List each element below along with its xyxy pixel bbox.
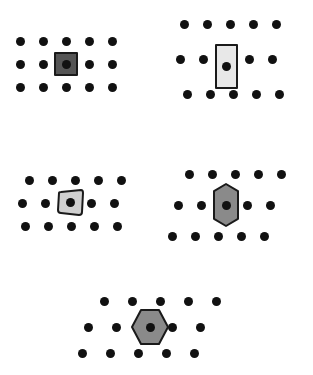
shape-center-dot (146, 323, 155, 332)
grid-dot (100, 297, 109, 306)
grid-dot (84, 323, 93, 332)
grid-dot (162, 349, 171, 358)
bottom-center-cluster (0, 0, 313, 375)
grid-dot (212, 297, 221, 306)
grid-dot (106, 349, 115, 358)
grid-dot (196, 323, 205, 332)
shape-center-dot (222, 201, 231, 210)
grid-dot (134, 349, 143, 358)
grid-dot (190, 349, 199, 358)
grid-dot (184, 297, 193, 306)
diagram-canvas (0, 0, 313, 375)
grid-dot (112, 323, 121, 332)
grid-dot (156, 297, 165, 306)
shape-center-dot (66, 198, 75, 207)
shape-center-dot (222, 62, 231, 71)
shape-center-dot (62, 60, 71, 69)
grid-dot (78, 349, 87, 358)
grid-dot (128, 297, 137, 306)
